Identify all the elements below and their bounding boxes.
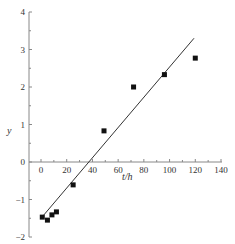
y-tick-label: −2 — [15, 232, 25, 242]
x-tick-label: 120 — [189, 165, 203, 175]
data-points — [40, 56, 198, 223]
data-point — [45, 218, 50, 223]
x-tick-label: 140 — [214, 165, 228, 175]
regression-line — [43, 38, 194, 216]
y-tick-label: 2 — [21, 82, 26, 92]
data-point — [71, 182, 76, 187]
x-tick-label: 20 — [62, 165, 72, 175]
data-point — [131, 85, 136, 90]
y-tick-label: 1 — [21, 120, 26, 130]
x-tick-label: 80 — [139, 165, 149, 175]
y-tick-label: 3 — [21, 45, 26, 55]
data-point — [40, 215, 45, 220]
data-point — [49, 212, 54, 217]
x-tick-label: 100 — [163, 165, 177, 175]
x-axis-label: t/h — [122, 171, 133, 182]
x-tick-label: 40 — [88, 165, 98, 175]
y-axis-label: y — [6, 125, 12, 136]
y-tick-label: 0 — [21, 157, 26, 167]
data-point — [193, 56, 198, 61]
axis-ticks: −2−101234020406080100120140 — [15, 7, 228, 242]
x-tick-label: 0 — [39, 165, 44, 175]
y-tick-label: −1 — [15, 195, 25, 205]
axes — [29, 12, 222, 237]
scatter-chart: −2−101234020406080100120140 t/h y — [0, 0, 235, 244]
data-point — [162, 72, 167, 77]
data-point — [102, 128, 107, 133]
data-point — [54, 209, 59, 214]
y-tick-label: 4 — [21, 7, 26, 17]
